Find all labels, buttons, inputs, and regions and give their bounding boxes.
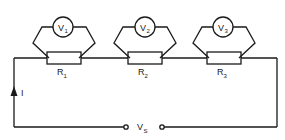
main-wires	[14, 58, 277, 127]
resistor-r2	[128, 52, 162, 64]
resistor-r3-sub: 3	[224, 73, 228, 79]
resistor-r1	[47, 52, 81, 64]
voltmeter-v2-label: V	[140, 23, 146, 33]
current-label: I	[21, 88, 24, 98]
voltmeter-v3-label: V	[218, 23, 224, 33]
supply-terminal-left	[124, 125, 128, 129]
supply-sub: S	[144, 128, 148, 134]
resistor-r2-sub: 2	[145, 73, 149, 79]
supply-label: V	[137, 122, 143, 132]
voltmeter-v1-label: V	[58, 23, 64, 33]
circuit-diagram: I V 1 R 1 V 2 R 2 V 3 R 3 V S	[0, 0, 285, 140]
current-arrow-icon	[11, 86, 18, 96]
resistor-r1-sub: 1	[64, 73, 68, 79]
resistor-r3	[207, 52, 241, 64]
supply-terminal-right	[160, 125, 164, 129]
